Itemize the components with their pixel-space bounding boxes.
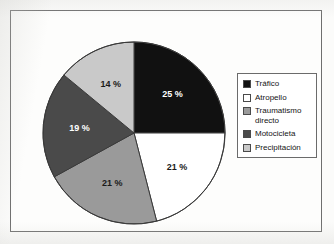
pie-slice[interactable] [134, 42, 225, 133]
figure-container: 25 %21 %21 %19 %14 % Tráfico Atropello T… [0, 0, 334, 244]
pie-chart: 25 %21 %21 %19 %14 % [42, 41, 226, 225]
pie-slice-label: 14 % [101, 79, 122, 89]
legend: Tráfico Atropello Traumatismo directo Mo… [237, 73, 317, 158]
pie-slice-label: 19 % [69, 123, 90, 133]
chart-frame: 25 %21 %21 %19 %14 % Tráfico Atropello T… [10, 10, 322, 232]
legend-swatch-atropello [243, 94, 251, 102]
legend-item-atropello[interactable]: Atropello [243, 93, 312, 103]
legend-item-motocicleta[interactable]: Motocicleta [243, 129, 312, 139]
legend-swatch-traumatismo-directo [243, 107, 251, 115]
pie-slice-group [43, 42, 225, 224]
legend-label-atropello: Atropello [255, 93, 287, 103]
legend-label-motocicleta: Motocicleta [255, 129, 295, 139]
pie-chart-svg: 25 %21 %21 %19 %14 % [42, 41, 226, 225]
legend-label-trafico: Tráfico [255, 79, 279, 89]
legend-item-traumatismo-directo[interactable]: Traumatismo directo [243, 106, 312, 125]
pie-slice-label: 21 % [102, 178, 123, 188]
pie-slice-label: 25 % [162, 89, 183, 99]
legend-label-precipitacion: Precipitación [255, 143, 301, 153]
legend-swatch-motocicleta [243, 130, 251, 138]
pie-slice-label: 21 % [167, 162, 188, 172]
legend-item-trafico[interactable]: Tráfico [243, 79, 312, 89]
legend-swatch-precipitacion [243, 144, 251, 152]
legend-item-precipitacion[interactable]: Precipitación [243, 143, 312, 153]
legend-label-traumatismo-directo: Traumatismo directo [255, 106, 301, 125]
legend-swatch-trafico [243, 80, 251, 88]
